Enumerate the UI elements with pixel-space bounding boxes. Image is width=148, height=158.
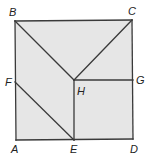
label-G: G xyxy=(136,74,145,86)
label-C: C xyxy=(128,5,136,17)
label-A: A xyxy=(10,143,18,155)
label-F: F xyxy=(5,76,13,88)
label-D: D xyxy=(130,143,138,155)
label-H: H xyxy=(77,85,85,97)
label-E: E xyxy=(70,143,78,155)
label-B: B xyxy=(9,6,16,18)
square-diagram: B C F H G A E D xyxy=(0,0,148,158)
